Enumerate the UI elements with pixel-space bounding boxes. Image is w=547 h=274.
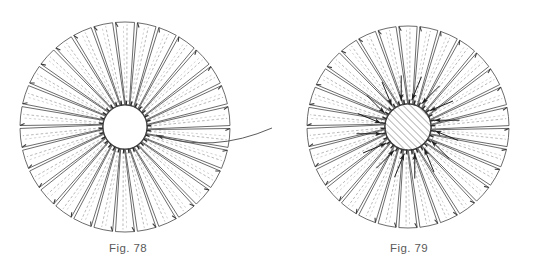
- blade-tip-mark: [91, 221, 92, 226]
- blade-tip-mark: [159, 28, 160, 33]
- blade-tip-mark: [459, 40, 460, 45]
- blade-tip-mark: [356, 209, 357, 214]
- figure-78: [20, 22, 272, 232]
- open-hub: [103, 105, 147, 149]
- blade-tip-mark: [178, 37, 179, 42]
- patent-figure-sheet: Fig. 78 Fig. 79: [0, 0, 547, 274]
- figure-79: [307, 26, 509, 228]
- figure-79-caption: Fig. 79: [390, 242, 428, 254]
- figure-78-caption: Fig. 78: [109, 242, 147, 254]
- figures-canvas: Fig. 78 Fig. 79: [0, 0, 547, 274]
- hatched-hub: [385, 104, 431, 150]
- blade-tip-mark: [71, 212, 72, 217]
